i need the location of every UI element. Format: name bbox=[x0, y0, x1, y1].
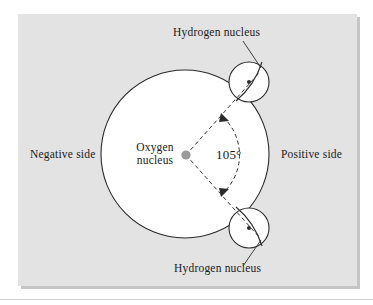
hydrogen-nucleus-label-top: Hydrogen nucleus bbox=[173, 26, 260, 38]
negative-side-label: Negative side bbox=[30, 148, 96, 160]
hydrogen-nucleus-label-bottom: Hydrogen nucleus bbox=[174, 262, 261, 274]
hydrogen-nucleus-dot-bottom bbox=[247, 226, 251, 230]
figure-root: Hydrogen nucleus Hydrogen nucleus Oxygen… bbox=[0, 0, 373, 305]
oxygen-nucleus-label: Oxygen nucleus bbox=[126, 141, 184, 167]
page-divider bbox=[0, 299, 373, 300]
positive-side-label: Positive side bbox=[281, 148, 342, 160]
hydrogen-nucleus-dot-top bbox=[247, 80, 251, 84]
bond-angle-label: 105° bbox=[216, 147, 242, 163]
